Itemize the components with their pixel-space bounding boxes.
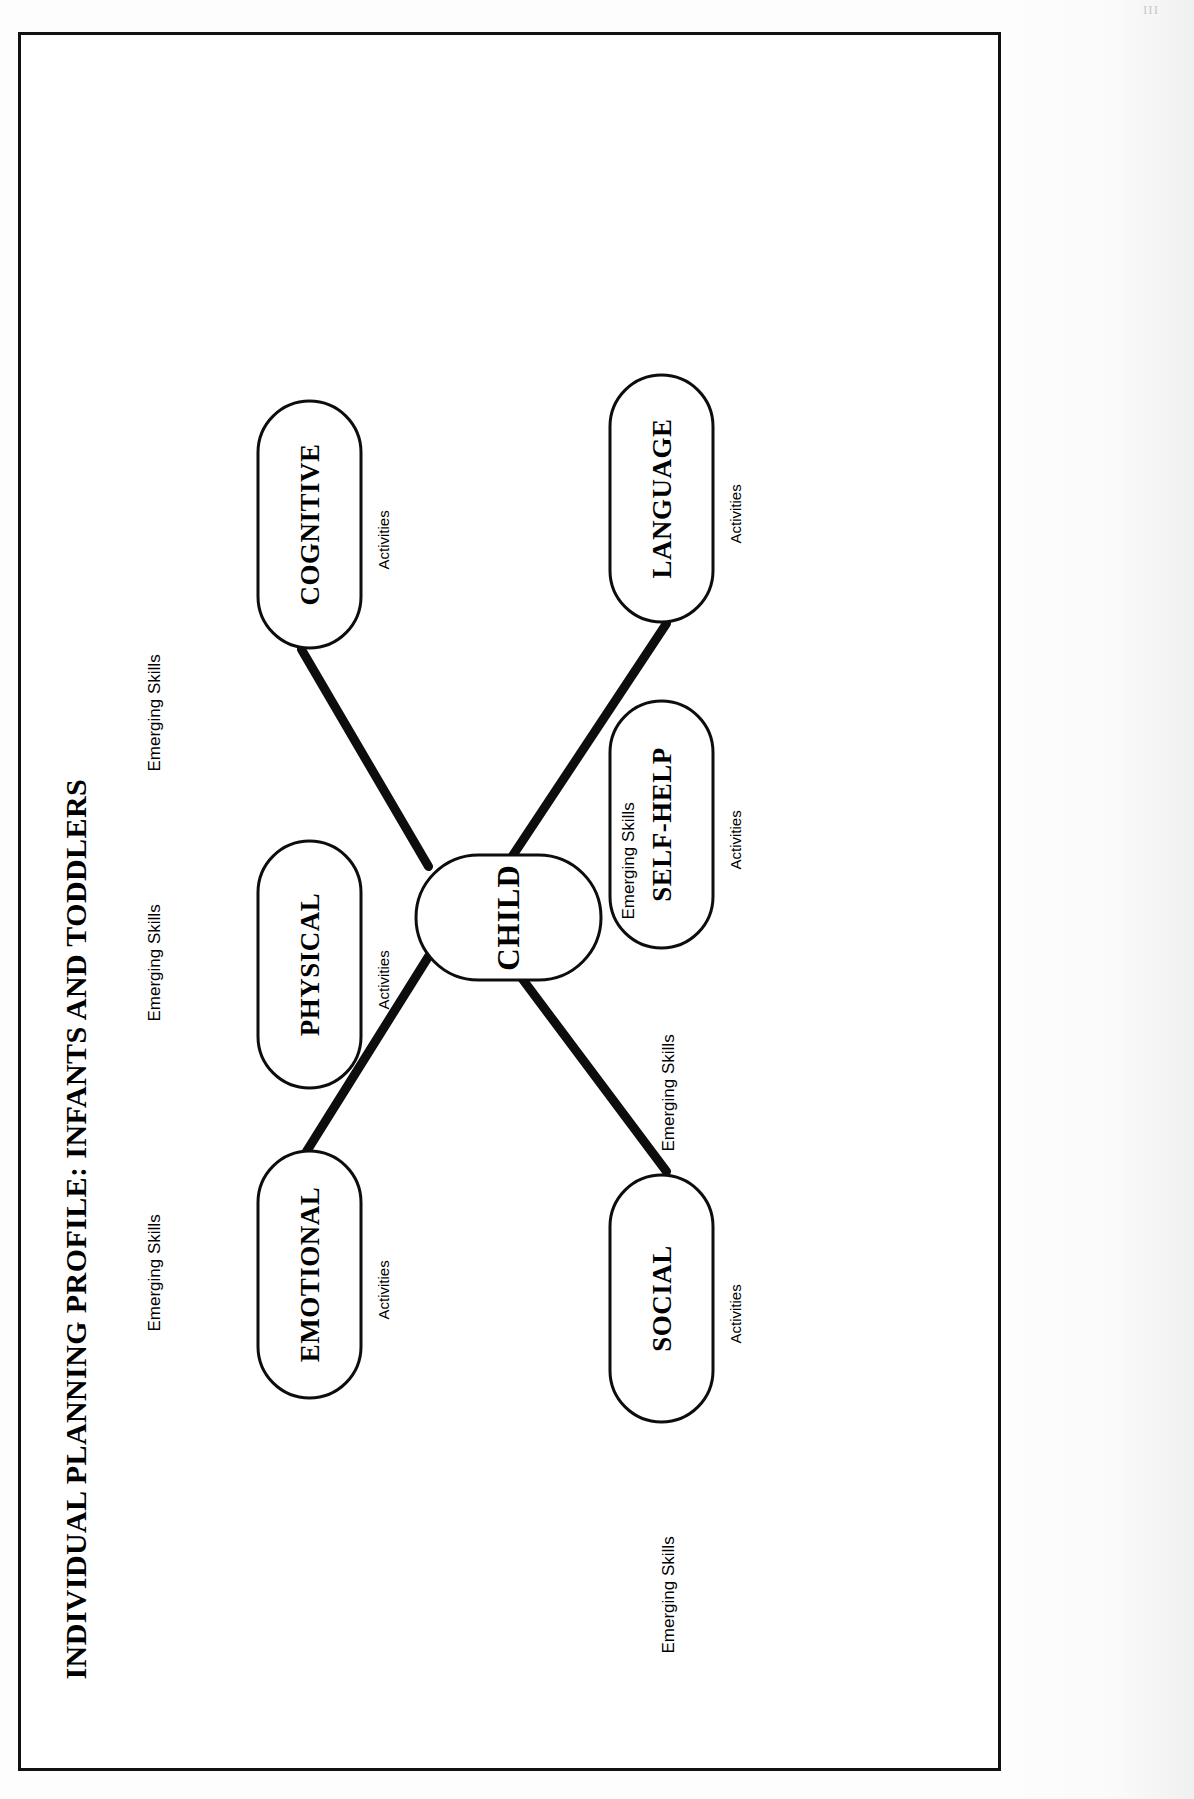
activities-label-emotional: Activities [374, 1260, 391, 1319]
node-social-label: SOCIAL [646, 1245, 677, 1352]
activities-label-physical: Activities [374, 950, 391, 1009]
link-child-social [505, 956, 666, 1171]
diagram-canvas: INDIVIDUAL PLANNING PROFILE: INFANTS AND… [18, 32, 1001, 1771]
node-emotional[interactable]: EMOTIONAL [256, 1149, 362, 1399]
emerging-skills-label-cognitive: Emerging Skills [144, 654, 164, 771]
node-emotional-label: EMOTIONAL [294, 1186, 325, 1362]
node-social[interactable]: SOCIAL [608, 1173, 714, 1423]
activities-label-selfhelp: Activities [726, 810, 743, 869]
node-cognitive-label: COGNITIVE [294, 443, 325, 605]
page-root: III INDIVIDUAL PLANNING PROFILE: INFANTS… [0, 0, 1194, 1799]
node-selfhelp-label: SELF-HELP [646, 747, 677, 902]
node-physical-label: PHYSICAL [294, 892, 325, 1036]
link-child-cognitive [301, 649, 428, 866]
activities-label-language: Activities [726, 484, 743, 543]
node-physical[interactable]: PHYSICAL [256, 839, 362, 1089]
emerging-skills-label-language: Emerging Skills [658, 1034, 678, 1151]
node-child[interactable]: CHILD [414, 853, 602, 981]
activities-label-social: Activities [726, 1284, 743, 1343]
scan-edge-shadow [1004, 0, 1194, 1799]
activities-label-cognitive: Activities [374, 510, 391, 569]
node-language[interactable]: LANGUAGE [608, 373, 714, 623]
emerging-skills-label-physical: Emerging Skills [144, 904, 164, 1021]
emerging-skills-label-child: Emerging Skills [618, 802, 638, 919]
emerging-skills-label-emotional: Emerging Skills [144, 1214, 164, 1331]
node-child-label: CHILD [490, 864, 526, 971]
page-corner-mark: III [1143, 2, 1159, 18]
node-language-label: LANGUAGE [646, 418, 677, 578]
emerging-skills-label-social: Emerging Skills [658, 1536, 678, 1653]
node-cognitive[interactable]: COGNITIVE [256, 399, 362, 649]
diagram-canvas-wrapper: INDIVIDUAL PLANNING PROFILE: INFANTS AND… [18, 32, 1001, 1771]
